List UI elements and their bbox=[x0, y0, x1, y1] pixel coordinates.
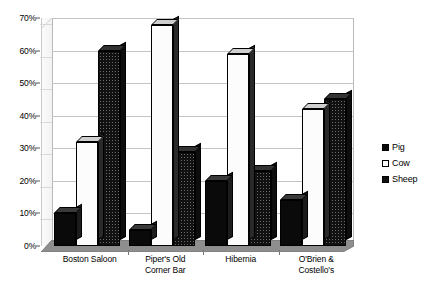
bar-group bbox=[129, 18, 195, 246]
chart-left-wall bbox=[41, 18, 52, 246]
x-axis-category-label: O'Brien & Costello's bbox=[279, 254, 355, 276]
y-axis-tick-mark bbox=[36, 50, 40, 51]
legend-item-label: Pig bbox=[392, 142, 405, 152]
bar-group bbox=[280, 18, 346, 246]
bar-front-face bbox=[151, 25, 173, 246]
legend-item-label: Sheep bbox=[392, 174, 418, 184]
gridline-depth bbox=[40, 187, 52, 188]
legend-item-cow[interactable]: Cow bbox=[382, 156, 428, 170]
bar-front-face bbox=[205, 181, 227, 246]
bar-front-face bbox=[280, 200, 302, 246]
bar-group bbox=[205, 18, 271, 246]
x-axis-tick-mark bbox=[203, 250, 204, 255]
y-axis-tick-label: 60% bbox=[2, 47, 36, 55]
legend-item-sheep[interactable]: Sheep bbox=[382, 172, 428, 186]
x-axis: Boston SaloonPiper's Old Corner BarHiber… bbox=[41, 254, 354, 288]
bar-side-face bbox=[195, 142, 201, 240]
gridline-depth bbox=[40, 57, 52, 58]
y-axis-tick-mark bbox=[36, 115, 40, 116]
x-axis-category-label: Hibernia bbox=[203, 254, 279, 265]
y-axis-tick-mark bbox=[36, 18, 40, 19]
y-axis-tick-label: 50% bbox=[2, 79, 36, 87]
bar-group bbox=[54, 18, 120, 246]
x-axis-tick-mark bbox=[128, 250, 129, 255]
bar-side-face bbox=[98, 133, 104, 240]
bar-chart: 0%10%20%30%40%50%60%70% Boston SaloonPip… bbox=[0, 0, 428, 288]
y-axis-tick-label: 70% bbox=[2, 14, 36, 22]
bar-front-face bbox=[129, 230, 151, 246]
bar-side-face bbox=[271, 162, 277, 240]
bar-side-face bbox=[227, 172, 233, 240]
sheep-swatch-icon bbox=[382, 176, 389, 183]
y-axis-tick-label: 10% bbox=[2, 209, 36, 217]
y-axis-tick-mark bbox=[36, 180, 40, 181]
gridline-depth bbox=[40, 219, 52, 220]
y-axis: 0%10%20%30%40%50%60%70% bbox=[0, 0, 36, 288]
bar-front-face bbox=[54, 213, 76, 246]
gridline-depth bbox=[40, 154, 52, 155]
y-axis-tick-label: 20% bbox=[2, 177, 36, 185]
cow-swatch-icon bbox=[382, 160, 389, 167]
legend-item-label: Cow bbox=[392, 158, 410, 168]
pig-swatch-icon bbox=[382, 144, 389, 151]
y-axis-tick-mark bbox=[36, 148, 40, 149]
y-axis-tick-mark bbox=[36, 83, 40, 84]
plot-area bbox=[52, 18, 354, 246]
y-axis-tick-label: 0% bbox=[2, 242, 36, 250]
bar-side-face bbox=[173, 15, 179, 240]
gridline-depth bbox=[40, 89, 52, 90]
bar-side-face bbox=[120, 41, 126, 240]
bar-side-face bbox=[249, 45, 255, 240]
y-axis-tick-mark bbox=[36, 213, 40, 214]
gridline-depth bbox=[40, 24, 52, 25]
gridline-depth bbox=[40, 122, 52, 123]
y-axis-tick-mark bbox=[36, 246, 40, 247]
y-axis-tick-label: 30% bbox=[2, 144, 36, 152]
legend-item-pig[interactable]: Pig bbox=[382, 140, 428, 154]
y-axis-tick-label: 40% bbox=[2, 112, 36, 120]
bar-side-face bbox=[324, 100, 330, 240]
chart-legend: PigCowSheep bbox=[382, 140, 428, 188]
x-axis-category-label: Boston Saloon bbox=[52, 254, 128, 265]
x-axis-tick-mark bbox=[279, 250, 280, 255]
bar-side-face bbox=[346, 90, 352, 240]
x-axis-category-label: Piper's Old Corner Bar bbox=[128, 254, 204, 276]
